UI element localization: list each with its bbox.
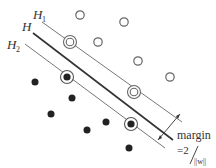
- filled-point: [48, 111, 55, 118]
- open-point: [134, 57, 142, 65]
- open-point: [166, 73, 174, 81]
- filled-point: [103, 119, 110, 126]
- label-h2-subscript: 2: [16, 45, 20, 54]
- filled-support-vector: [61, 71, 74, 84]
- formula-denominator: ||w||: [194, 157, 206, 166]
- svm-margin-diagram: H 1 H H 2 margin =2 ||w||: [0, 0, 216, 168]
- open-point: [94, 38, 102, 46]
- filled-support-vector: [125, 118, 138, 131]
- label-h1-subscript: 1: [42, 15, 46, 24]
- open-support-vector: [128, 86, 141, 99]
- margin-label: margin: [177, 128, 211, 142]
- open-point: [76, 11, 84, 19]
- formula-numerator: =2: [177, 144, 189, 156]
- filled-point: [84, 127, 91, 134]
- filled-point: [32, 79, 39, 86]
- filled-point: [69, 95, 76, 102]
- open-support-vector: [64, 36, 77, 49]
- open-point: [120, 18, 128, 26]
- hyperplane-h: [33, 33, 173, 140]
- filled-point: [126, 145, 133, 152]
- points-layer: [32, 11, 175, 152]
- label-h: H: [21, 19, 32, 34]
